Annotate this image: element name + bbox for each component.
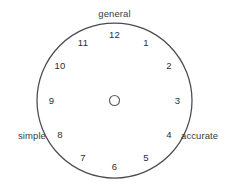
hour-label-5: 5 (143, 153, 148, 163)
hour-label-11: 11 (78, 38, 88, 48)
dial-outline-circle (37, 23, 192, 178)
hour-label-3: 3 (175, 96, 180, 106)
hour-label-6: 6 (112, 162, 117, 172)
hour-label-4: 4 (166, 130, 171, 140)
diagram-canvas: 12 1 2 3 4 5 6 7 8 9 10 11 general simpl… (0, 0, 235, 185)
axis-label-general: general (98, 9, 130, 19)
hour-label-8: 8 (57, 130, 62, 140)
hour-label-7: 7 (80, 153, 85, 163)
dial-graphics (0, 0, 235, 185)
dial-center-hub-circle (110, 96, 120, 106)
axis-label-simple: simple (18, 131, 46, 141)
axis-label-accurate: accurate (181, 131, 218, 141)
hour-label-2: 2 (166, 61, 171, 71)
hour-label-10: 10 (55, 61, 66, 71)
hour-label-1: 1 (143, 38, 148, 48)
hour-label-9: 9 (49, 96, 54, 106)
hour-label-12: 12 (109, 30, 120, 40)
